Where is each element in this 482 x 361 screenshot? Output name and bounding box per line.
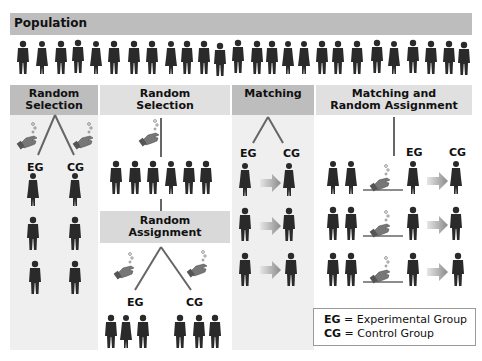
legend-cg-row: CG = Control Group: [324, 327, 434, 340]
legend-cg-text: = Control Group: [345, 327, 434, 340]
legend-eg-text: = Experimental Group: [344, 313, 467, 326]
legend-box: EG = Experimental Group CG = Control Gro…: [313, 308, 476, 346]
legend-eg-row: EG = Experimental Group: [324, 313, 467, 326]
legend-cg-abbr: CG: [324, 327, 341, 340]
diagram-graphics: [0, 0, 482, 361]
population-silhouettes: [17, 40, 470, 76]
legend-eg-abbr: EG: [324, 313, 341, 326]
